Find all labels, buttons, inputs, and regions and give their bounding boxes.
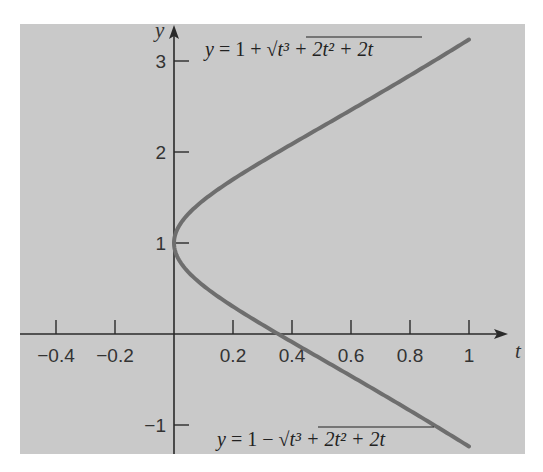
plot-background xyxy=(20,24,525,454)
y-tick-label: −1 xyxy=(144,415,166,436)
sqrt-symbol: √ xyxy=(278,428,289,450)
x-tick-label: 0.2 xyxy=(220,345,246,366)
chart: t y −0.4−0.20.20.40.60.81 −1123 y = 1 + … xyxy=(0,0,543,472)
y-axis-label: y xyxy=(153,18,165,42)
x-tick-label: −0.4 xyxy=(37,345,75,366)
y-tick-label: 3 xyxy=(155,51,166,72)
x-tick-label: 0.8 xyxy=(397,345,423,366)
x-tick-label: −0.2 xyxy=(96,345,134,366)
y-tick-label: 1 xyxy=(155,233,166,254)
x-tick-label: 1 xyxy=(464,345,475,366)
svg-text:y = 1 + √t³ + 2t² + 2t: y = 1 + √t³ + 2t² + 2t xyxy=(203,38,374,61)
svg-text:y = 1 − √t³ + 2t² + 2t: y = 1 − √t³ + 2t² + 2t xyxy=(215,428,386,451)
y-tick-label: 2 xyxy=(155,142,166,163)
x-tick-label: 0.6 xyxy=(338,345,364,366)
sqrt-symbol: √ xyxy=(266,38,277,60)
